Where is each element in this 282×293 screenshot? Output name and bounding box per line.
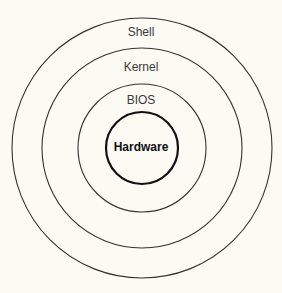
os-layers-diagram: Shell Kernel BIOS Hardware xyxy=(0,0,282,293)
kernel-label: Kernel xyxy=(0,60,282,74)
shell-label: Shell xyxy=(0,25,282,39)
bios-label: BIOS xyxy=(0,93,282,107)
hardware-label: Hardware xyxy=(0,140,282,154)
